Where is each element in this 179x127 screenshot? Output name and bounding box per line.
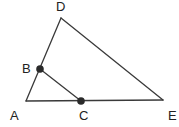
label-B: B <box>22 61 31 76</box>
segment-AE <box>26 100 163 101</box>
segments <box>26 18 163 101</box>
segment-BC <box>40 69 81 101</box>
label-E: E <box>168 108 177 123</box>
label-A: A <box>10 108 19 123</box>
point-B-dot <box>36 65 44 73</box>
segment-DE <box>61 18 163 100</box>
point-C-dot <box>77 97 85 105</box>
label-C: C <box>79 108 88 123</box>
triangle-diagram: A D E B C <box>0 0 179 127</box>
label-D: D <box>56 0 65 14</box>
labels: A D E B C <box>10 0 177 123</box>
segment-AD <box>26 18 61 101</box>
